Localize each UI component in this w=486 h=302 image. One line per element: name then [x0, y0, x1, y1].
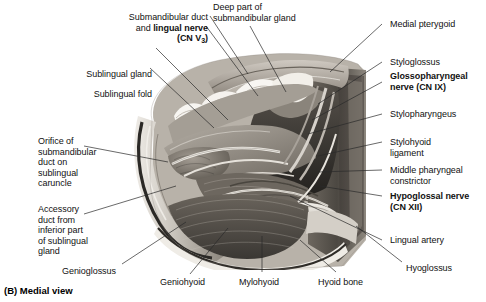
label-stylohyoid-ligament: Stylohyoid ligament — [390, 137, 486, 158]
dissection-photograph — [112, 30, 374, 270]
label-line-2: and lingual nerve — [136, 23, 208, 33]
label-stylopharyngeus: Stylopharyngeus — [390, 109, 486, 120]
label-line-3: (CN V3) — [177, 33, 208, 43]
label-hyoid-bone: Hyoid bone — [318, 277, 386, 288]
label-glossopharyngeal-nerve: Glossopharyngeal nerve (CN IX) — [390, 71, 486, 92]
label-hypoglossal-nerve: Hypoglossal nerve (CN XII) — [390, 191, 486, 212]
figure-medial-view: Submandibular ductand lingual nerve(CN V… — [0, 0, 486, 302]
label-line-1: Submandibular duct — [129, 12, 208, 22]
label-sublingual-gland: Sublingual gland — [66, 69, 152, 80]
label-styloglossus: Styloglossus — [390, 57, 486, 68]
label-medial-pterygoid: Medial pterygoid — [390, 19, 486, 30]
label-middle-pharyngeal-constrictor: Middle pharyngeal constrictor — [390, 165, 486, 186]
label-mylohyoid: Mylohyoid — [239, 277, 309, 288]
label-genioglossus: Genioglossus — [62, 266, 142, 277]
label-sublingual-fold: Sublingual fold — [66, 89, 152, 100]
label-submandibular-duct-lingual-nerve: Submandibular ductand lingual nerve(CN V… — [72, 12, 208, 47]
label-hyoglossus: Hyoglossus — [406, 263, 478, 274]
figure-caption: (B) Medial view — [4, 285, 73, 296]
label-lingual-artery: Lingual artery — [390, 235, 486, 246]
label-deep-part-submandibular-gland: Deep part of submandibular gland — [213, 2, 323, 23]
label-orifice-submandibular-duct: Orifice of submandibular duct on subling… — [38, 136, 118, 189]
label-accessory-duct: Accessory duct from inferior part of sub… — [38, 204, 118, 257]
label-geniohyoid: Geniohyoid — [160, 277, 232, 288]
